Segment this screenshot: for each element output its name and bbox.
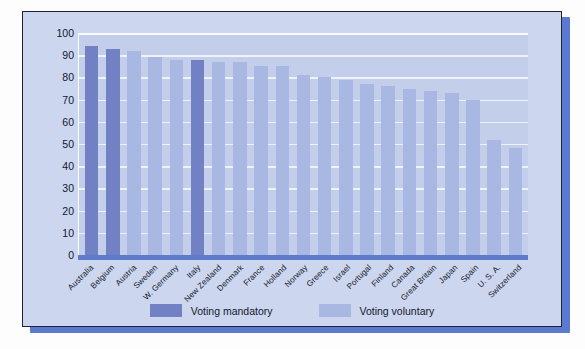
bar-austria [127,51,141,255]
y-tick-40: 40 [62,161,74,172]
legend-label-mandatory: Voting mandatory [191,305,273,317]
bar-new-zealand [212,62,226,255]
legend-swatch-voluntary [319,304,351,317]
y-tick-90: 90 [62,50,74,61]
y-tick-30: 30 [62,183,74,194]
legend-item-voluntary: Voting voluntary [319,304,435,317]
legend-swatch-mandatory [150,304,182,317]
bar-france [254,66,268,255]
bar-canada [403,89,417,256]
bar-switzerland [509,148,523,255]
bar-series [79,33,528,255]
bar-w-germany [170,60,184,255]
y-tick-80: 80 [62,72,74,83]
y-tick-60: 60 [62,117,74,128]
bar-slot [272,33,293,255]
chart-figure: Percentage 1009080706050403020100 Austra… [22,11,562,327]
bar-greece [318,77,332,255]
bar-portugal [360,84,374,255]
y-tick-20: 20 [62,205,74,216]
bar-slot [314,33,335,255]
bar-slot [229,33,250,255]
x-tick-italy: Italy [185,263,202,280]
bar-slot [81,33,102,255]
bar-norway [297,75,311,255]
bar-slot [420,33,441,255]
bar-slot [145,33,166,255]
scanned-page: Percentage 1009080706050403020100 Austra… [0,0,585,349]
bar-italy [191,60,205,255]
bar-great-britain [424,91,438,255]
bar-australia [85,46,99,255]
bar-belgium [106,49,120,255]
bar-finland [381,86,395,255]
bar-slot [356,33,377,255]
x-tick-australia: Australia [66,263,95,292]
chart-legend: Voting mandatoryVoting voluntary [23,304,561,317]
bar-slot [208,33,229,255]
bar-japan [445,93,459,255]
y-tick-70: 70 [62,94,74,105]
bar-slot [378,33,399,255]
bar-slot [505,33,526,255]
y-tick-10: 10 [62,228,74,239]
bar-holland [276,66,290,255]
y-axis-tick-labels: 1009080706050403020100 [41,33,74,255]
bar-slot [484,33,505,255]
y-tick-100: 100 [56,28,74,39]
bar-sweden [148,57,162,255]
legend-label-voluntary: Voting voluntary [360,305,435,317]
plot-wrapper: Percentage 1009080706050403020100 Austra… [23,12,561,326]
y-tick-50: 50 [62,139,74,150]
bar-slot [293,33,314,255]
bar-slot [441,33,462,255]
x-axis-baseline [78,255,528,260]
bar-slot [462,33,483,255]
y-tick-0: 0 [68,250,74,261]
legend-item-mandatory: Voting mandatory [150,304,273,317]
bar-slot [335,33,356,255]
bar-slot [102,33,123,255]
bar-spain [466,100,480,255]
bar-u-s-a [487,140,501,255]
bar-israel [339,80,353,255]
plot-canvas [78,33,528,255]
bar-denmark [233,62,247,255]
bar-slot [187,33,208,255]
bar-slot [251,33,272,255]
bar-slot [123,33,144,255]
bar-slot [166,33,187,255]
bar-slot [399,33,420,255]
